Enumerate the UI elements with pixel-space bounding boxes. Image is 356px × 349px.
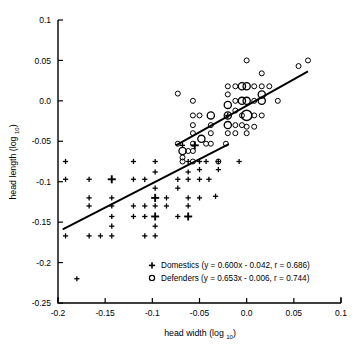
data-point-defenders (190, 113, 195, 118)
data-point-domestics (153, 169, 158, 174)
data-point-defenders (267, 84, 272, 89)
data-point-defenders (179, 147, 186, 154)
data-point-defenders (208, 131, 213, 136)
data-point-domestics (186, 169, 191, 174)
data-point-domestics (131, 159, 136, 164)
y-tick-label-3: -0.1 (36, 177, 51, 187)
data-point-defenders (244, 58, 249, 63)
data-point-defenders (275, 98, 280, 103)
data-point-defenders (305, 58, 310, 63)
data-point-domestics (151, 212, 159, 220)
data-point-defenders (224, 101, 231, 108)
data-point-domestics (186, 195, 191, 200)
data-point-domestics (197, 167, 202, 172)
data-point-defenders (224, 122, 231, 129)
x-tick-label-5: 0.05 (286, 308, 303, 318)
data-point-domestics (87, 203, 92, 208)
y-axis-title-close: ) (8, 124, 18, 127)
data-point-defenders (243, 83, 250, 90)
scatter-chart-figure: -0.2-0.15-0.1-0.050.00.050.1-0.25-0.2-0.… (0, 0, 356, 349)
x-tick-label-4: 0.0 (241, 308, 253, 318)
data-point-domestics (213, 194, 218, 199)
data-point-defenders (190, 98, 195, 103)
data-point-domestics (109, 195, 114, 200)
data-point-defenders (233, 123, 238, 128)
data-point-domestics (142, 233, 147, 238)
svg-text:head length (log 10): head length (log 10) (8, 124, 20, 199)
data-point-defenders (198, 135, 205, 142)
data-point-domestics (131, 203, 136, 208)
data-point-defenders (225, 131, 230, 136)
svg-text:head width (log 10): head width (log 10) (164, 328, 236, 340)
data-point-domestics (74, 276, 79, 281)
y-tick-label-0: -0.25 (32, 298, 52, 308)
x-axis-title: head width (log 10) (164, 328, 236, 340)
data-point-defenders (241, 110, 251, 120)
data-point-domestics (186, 177, 191, 182)
y-axis-title: head length (log 10) (8, 124, 20, 199)
data-point-defenders (252, 84, 257, 89)
x-tick-label-6: 0.1 (335, 308, 347, 318)
data-point-defenders (197, 113, 202, 118)
y-tick-label-4: -0.05 (32, 136, 52, 146)
data-point-domestics (87, 177, 92, 182)
plot-canvas: -0.2-0.15-0.1-0.050.00.050.1-0.25-0.2-0.… (0, 0, 356, 349)
data-point-domestics (142, 214, 147, 219)
data-point-defenders (207, 112, 214, 119)
data-point-domestics (63, 177, 68, 182)
data-point-domestics (109, 233, 114, 238)
data-point-defenders (259, 113, 264, 118)
data-point-domestics (153, 159, 158, 164)
data-point-domestics (175, 177, 180, 182)
data-point-domestics (108, 175, 116, 183)
y-tick-label-7: 0.1 (39, 15, 51, 25)
data-point-defenders (225, 84, 230, 89)
y-axis-title-text: head length (log (8, 134, 18, 200)
y-tick-label-2: -0.15 (32, 217, 52, 227)
legend-circle-icon (149, 275, 154, 280)
data-point-domestics (109, 224, 114, 229)
data-point-defenders (225, 92, 230, 97)
data-point-domestics (153, 224, 158, 229)
data-point-domestics (184, 212, 192, 220)
x-tick-label-3: -0.05 (190, 308, 210, 318)
x-axis-title-text: head width (log (164, 328, 226, 338)
data-point-defenders (233, 131, 238, 136)
data-point-domestics (175, 214, 180, 219)
data-point-defenders (244, 124, 249, 129)
legend-label-0: Domestics (y = 0.600x - 0.042, r = 0.686… (161, 261, 310, 270)
data-point-domestics (98, 233, 103, 238)
y-tick-label-6: 0.05 (34, 56, 51, 66)
data-point-defenders (259, 84, 264, 89)
data-point-domestics (63, 159, 68, 164)
x-tick-label-0: -0.2 (51, 308, 66, 318)
data-point-domestics (175, 186, 180, 191)
data-point-domestics (153, 203, 158, 208)
data-point-defenders (233, 98, 238, 103)
data-point-domestics (186, 203, 191, 208)
data-point-domestics (153, 186, 158, 191)
data-point-domestics (142, 177, 147, 182)
data-point-domestics (87, 195, 92, 200)
data-point-defenders (252, 124, 257, 129)
data-point-defenders (233, 84, 238, 89)
x-tick-label-1: -0.15 (95, 308, 115, 318)
y-tick-label-5: 0.0 (39, 96, 51, 106)
y-tick-label-1: -0.2 (36, 258, 51, 268)
legend-entry-1: Defenders (y = 0.653x - 0.006, r = 0.744… (149, 274, 309, 283)
data-point-domestics (151, 194, 159, 202)
legend-entry-0: Domestics (y = 0.600x - 0.042, r = 0.686… (149, 261, 310, 270)
data-point-domestics (204, 159, 209, 164)
data-point-defenders (296, 64, 301, 69)
data-point-domestics (87, 233, 92, 238)
data-point-domestics (197, 195, 202, 200)
data-point-domestics (164, 195, 169, 200)
data-point-domestics (153, 233, 158, 238)
data-point-domestics (131, 177, 136, 182)
data-point-domestics (216, 167, 221, 172)
x-tick-label-2: -0.1 (145, 308, 160, 318)
x-axis-title-close: ) (233, 328, 236, 338)
data-point-domestics (131, 214, 136, 219)
data-point-domestics (197, 177, 202, 182)
data-point-domestics (142, 203, 147, 208)
